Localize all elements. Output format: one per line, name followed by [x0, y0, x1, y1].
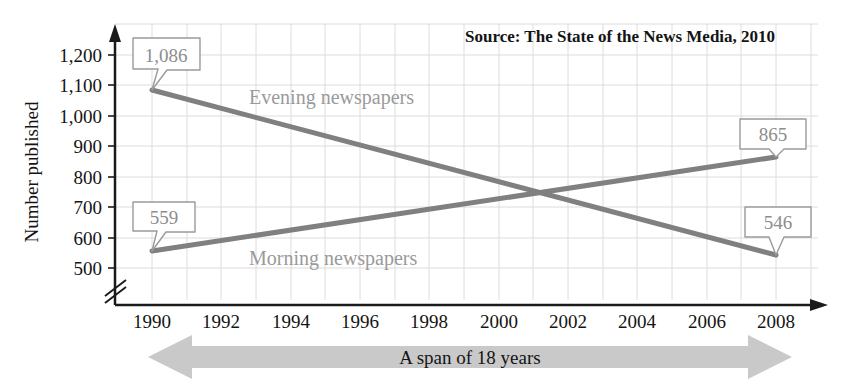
y-tick-900: 900	[74, 136, 103, 157]
y-tick-1000: 1,000	[59, 106, 102, 127]
y-axis-title: Number published	[21, 101, 42, 242]
y-tick-800: 800	[74, 167, 103, 188]
callout-morning-end: 865	[740, 119, 806, 157]
callout-evening-start: 1,086	[133, 38, 200, 90]
x-tick-1990: 1990	[133, 311, 171, 332]
y-axis	[108, 24, 121, 305]
series-label-evening: Evening newspapers	[249, 86, 414, 109]
span-banner: A span of 18 years	[148, 335, 792, 379]
x-tick-1994: 1994	[272, 311, 311, 332]
x-tick-2000: 2000	[480, 311, 518, 332]
x-tick-2008: 2008	[757, 311, 795, 332]
callout-label-1086: 1,086	[145, 45, 188, 66]
y-tick-1100: 1,100	[59, 75, 102, 96]
callout-label-546: 546	[764, 212, 793, 233]
y-tick-500: 500	[74, 258, 103, 279]
x-tick-2006: 2006	[688, 311, 726, 332]
x-tick-2004: 2004	[618, 311, 657, 332]
x-tick-1992: 1992	[202, 311, 240, 332]
chart-container: 1,200 1,100 1,000 900 800 700 600 500 Nu…	[0, 0, 844, 385]
source-note: Source: The State of the News Media, 201…	[465, 27, 775, 46]
callout-label-865: 865	[759, 124, 788, 145]
x-tick-1996: 1996	[341, 311, 379, 332]
grid-lines	[115, 24, 818, 300]
series-label-morning: Morning newspapers	[249, 247, 418, 270]
y-tick-600: 600	[74, 228, 103, 249]
x-axis	[115, 299, 828, 311]
y-tick-1200: 1,200	[59, 45, 102, 66]
y-tick-labels: 1,200 1,100 1,000 900 800 700 600 500	[59, 45, 102, 279]
x-tick-2002: 2002	[549, 311, 587, 332]
x-tick-1998: 1998	[410, 311, 448, 332]
span-banner-label: A span of 18 years	[399, 347, 540, 368]
x-tick-labels: 1990 1992 1994 1996 1998 2000 2002 2004 …	[133, 311, 795, 332]
y-tick-700: 700	[74, 197, 103, 218]
callout-label-559: 559	[150, 207, 179, 228]
